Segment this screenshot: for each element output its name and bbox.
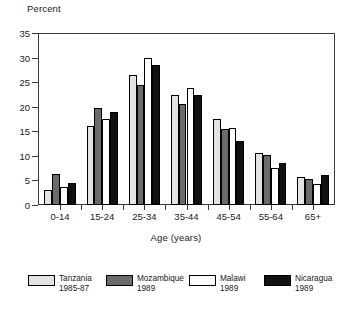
x-axis-title: Age (years) (0, 232, 352, 243)
legend-period-nicaragua: 1989 (295, 284, 332, 294)
bar-malawi-25-34 (144, 58, 152, 205)
x-axis-tick-center (313, 205, 314, 210)
x-axis-tick-center (102, 205, 103, 210)
bar-tanzania-15-24 (87, 126, 95, 205)
legend-entry-malawi[interactable]: Malawi1989 (189, 274, 245, 293)
bar-nicaragua-25-34 (152, 65, 160, 205)
legend-text-malawi: Malawi1989 (220, 274, 245, 293)
x-axis-tick-center (271, 205, 272, 210)
legend-swatch-tanzania (28, 275, 55, 286)
x-axis-tick-center (144, 205, 145, 210)
legend-label-malawi: Malawi (220, 274, 245, 284)
bar-malawi-55-64 (271, 168, 279, 205)
legend-entry-nicaragua[interactable]: Nicaragua1989 (264, 274, 332, 293)
bar-tanzania-65 (297, 177, 305, 205)
bars-layer (39, 34, 334, 205)
y-axis-label: 15 (0, 126, 33, 137)
legend-text-tanzania: Tanzania1985-87 (59, 274, 92, 293)
bar-malawi-15-24 (102, 119, 110, 205)
y-axis-label: 35 (0, 28, 33, 39)
bar-nicaragua-35-44 (194, 95, 202, 205)
bar-mozambique-65 (305, 179, 313, 205)
x-axis-label-15-24: 15-24 (90, 211, 114, 222)
bar-malawi-65 (313, 184, 321, 205)
bar-nicaragua-15-24 (110, 112, 118, 205)
x-axis-tick (123, 205, 124, 210)
legend-swatch-mozambique (106, 275, 133, 286)
chart-legend: Tanzania1985-87Mozambique1989Malawi1989N… (28, 274, 328, 304)
x-axis-tick (292, 205, 293, 210)
bar-malawi-35-44 (187, 88, 195, 205)
bar-chart: Percent 05101520253035 0-1415-2425-3435-… (0, 0, 352, 317)
bar-nicaragua-55-64 (279, 163, 287, 205)
bar-nicaragua-65 (321, 175, 329, 205)
bar-tanzania-55-64 (255, 153, 263, 205)
bar-mozambique-35-44 (179, 104, 187, 205)
legend-swatch-nicaragua (264, 275, 291, 286)
bar-malawi-45-54 (229, 128, 237, 205)
legend-text-nicaragua: Nicaragua1989 (295, 274, 332, 293)
x-axis-label-55-64: 55-64 (259, 211, 283, 222)
y-axis-label: 10 (0, 150, 33, 161)
bar-mozambique-0-14 (52, 174, 60, 205)
x-axis-tick-center (229, 205, 230, 210)
legend-swatch-malawi (189, 275, 216, 286)
bar-mozambique-45-54 (221, 129, 229, 205)
bar-tanzania-25-34 (129, 75, 137, 205)
legend-label-nicaragua: Nicaragua (295, 274, 332, 284)
bar-mozambique-55-64 (263, 155, 271, 205)
x-axis-tick (250, 205, 251, 210)
legend-label-mozambique: Mozambique (137, 274, 184, 284)
x-axis-label-45-54: 45-54 (216, 211, 240, 222)
bar-tanzania-0-14 (44, 190, 52, 205)
bar-tanzania-35-44 (171, 95, 179, 205)
x-axis-label-35-44: 35-44 (174, 211, 198, 222)
bar-malawi-0-14 (60, 187, 68, 205)
legend-period-mozambique: 1989 (137, 284, 184, 294)
legend-text-mozambique: Mozambique1989 (137, 274, 184, 293)
legend-period-malawi: 1989 (220, 284, 245, 294)
y-axis-title: Percent (27, 3, 61, 14)
x-axis-tick (165, 205, 166, 210)
legend-period-tanzania: 1985-87 (59, 284, 92, 294)
x-axis-tick-center (60, 205, 61, 210)
legend-entry-mozambique[interactable]: Mozambique1989 (106, 274, 184, 293)
x-axis-label-0-14: 0-14 (51, 211, 70, 222)
x-axis-label-25-34: 25-34 (132, 211, 156, 222)
bar-mozambique-25-34 (137, 85, 145, 205)
x-axis-tick (208, 205, 209, 210)
bar-nicaragua-45-54 (236, 141, 244, 205)
x-axis-tick (81, 205, 82, 210)
bar-tanzania-45-54 (213, 119, 221, 205)
y-axis-label: 20 (0, 101, 33, 112)
bar-mozambique-15-24 (94, 108, 102, 205)
y-axis-label: 25 (0, 77, 33, 88)
legend-label-tanzania: Tanzania (59, 274, 92, 284)
legend-entry-tanzania[interactable]: Tanzania1985-87 (28, 274, 92, 293)
bar-nicaragua-0-14 (68, 183, 76, 205)
y-axis-label: 5 (0, 175, 33, 186)
y-axis-label: 0 (0, 200, 33, 211)
x-axis-label-65: 65+ (305, 211, 321, 222)
x-axis-tick-center (187, 205, 188, 210)
y-axis-label: 30 (0, 52, 33, 63)
